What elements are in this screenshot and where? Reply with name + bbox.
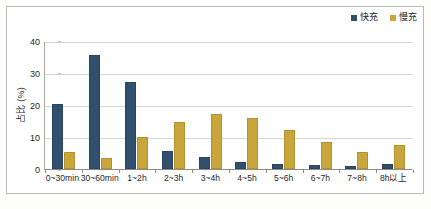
- bar-slow-charge[interactable]: [357, 152, 368, 169]
- bar-slow-charge[interactable]: [284, 130, 295, 169]
- x-axis-tick-label: 7~8h: [339, 174, 376, 183]
- bar-group: [375, 42, 412, 169]
- x-axis-tick: [155, 170, 156, 173]
- bar-group: [229, 42, 266, 169]
- bar-group: [118, 42, 155, 169]
- bar-group: [339, 42, 376, 169]
- legend-entry-slow-charge: 慢充: [390, 13, 417, 22]
- y-axis-tick-label: 10: [30, 134, 40, 143]
- bar-fast-charge[interactable]: [235, 162, 246, 169]
- bar-fast-charge[interactable]: [309, 165, 320, 169]
- y-axis-tick-label: 40: [30, 38, 40, 47]
- bar-slow-charge[interactable]: [211, 114, 222, 169]
- legend-label-fast-charge: 快充: [360, 13, 378, 22]
- x-axis-tick-label: 4~5h: [229, 174, 266, 183]
- bar-fast-charge[interactable]: [272, 164, 283, 169]
- chart-figure: 快充 慢充 占比 (%) 010203040 0~30min30~60min1~…: [0, 0, 431, 209]
- x-axis-tick: [376, 170, 377, 173]
- x-axis-tick: [266, 170, 267, 173]
- x-axis-tick-label: 8h以上: [375, 174, 412, 183]
- x-axis-tick-label: 3~4h: [192, 174, 229, 183]
- x-axis-tick-label: 6~7h: [302, 174, 339, 183]
- bars-layer: [45, 42, 412, 169]
- x-axis-tick: [339, 170, 340, 173]
- y-axis-labels: 010203040: [18, 42, 40, 170]
- bar-slow-charge[interactable]: [174, 122, 185, 169]
- x-axis-tick: [192, 170, 193, 173]
- chart-legend: 快充 慢充: [351, 13, 417, 22]
- x-axis-tick-label: 1~2h: [119, 174, 156, 183]
- bar-slow-charge[interactable]: [101, 158, 112, 169]
- bar-slow-charge[interactable]: [137, 137, 148, 169]
- x-axis-tick-label: 0~30min: [44, 174, 81, 183]
- bar-group: [192, 42, 229, 169]
- bar-slow-charge[interactable]: [247, 118, 258, 169]
- bar-group: [82, 42, 119, 169]
- bar-fast-charge[interactable]: [199, 157, 210, 169]
- x-axis-tick-label: 2~3h: [155, 174, 192, 183]
- bar-group: [45, 42, 82, 169]
- bar-fast-charge[interactable]: [125, 82, 136, 169]
- bar-fast-charge[interactable]: [162, 151, 173, 169]
- bar-fast-charge[interactable]: [345, 166, 356, 169]
- bar-fast-charge[interactable]: [382, 164, 393, 169]
- bar-fast-charge[interactable]: [52, 104, 63, 169]
- bar-slow-charge[interactable]: [321, 142, 332, 169]
- x-axis-tick: [303, 170, 304, 173]
- x-axis-tick: [229, 170, 230, 173]
- y-axis-tick-label: 30: [30, 70, 40, 79]
- y-axis-tick-label: 0: [35, 166, 40, 175]
- legend-swatch-fast-charge: [351, 15, 357, 21]
- legend-swatch-slow-charge: [390, 15, 396, 21]
- legend-entry-fast-charge: 快充: [351, 13, 378, 22]
- y-axis-tick-label: 20: [30, 102, 40, 111]
- bar-slow-charge[interactable]: [64, 152, 75, 169]
- x-axis-tick-label: 5~6h: [265, 174, 302, 183]
- bar-fast-charge[interactable]: [89, 55, 100, 169]
- bar-group: [155, 42, 192, 169]
- x-axis-labels: 0~30min30~60min1~2h2~3h3~4h4~5h5~6h6~7h7…: [44, 174, 412, 183]
- x-axis-tick-label: 30~60min: [81, 174, 119, 183]
- bar-group: [302, 42, 339, 169]
- x-axis-tick: [413, 170, 414, 173]
- bar-slow-charge[interactable]: [394, 145, 405, 169]
- bar-group: [265, 42, 302, 169]
- legend-label-slow-charge: 慢充: [399, 13, 417, 22]
- plot-area: [44, 42, 412, 170]
